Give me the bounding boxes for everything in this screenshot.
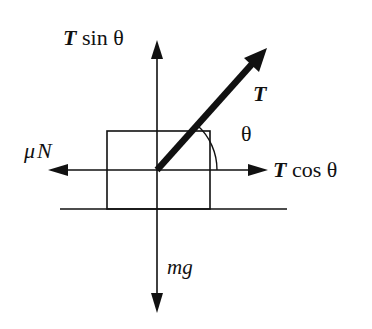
free-body-diagram: T sin θ T θ μN T cos θ mg — [0, 0, 372, 329]
label-mu-n: μN — [23, 138, 53, 163]
label-t-sin-theta: T sin θ — [63, 25, 124, 50]
friction-arrowhead-icon — [48, 164, 68, 176]
label-theta: θ — [241, 121, 252, 146]
label-t: T — [253, 81, 268, 106]
mg-arrowhead-icon — [151, 293, 163, 313]
label-mg: mg — [167, 255, 193, 279]
t-sin-arrowhead-icon — [151, 40, 163, 59]
tension-vector — [157, 64, 252, 170]
t-cos-arrowhead-icon — [248, 164, 268, 176]
label-t-cos-theta: T cos θ — [273, 157, 337, 182]
